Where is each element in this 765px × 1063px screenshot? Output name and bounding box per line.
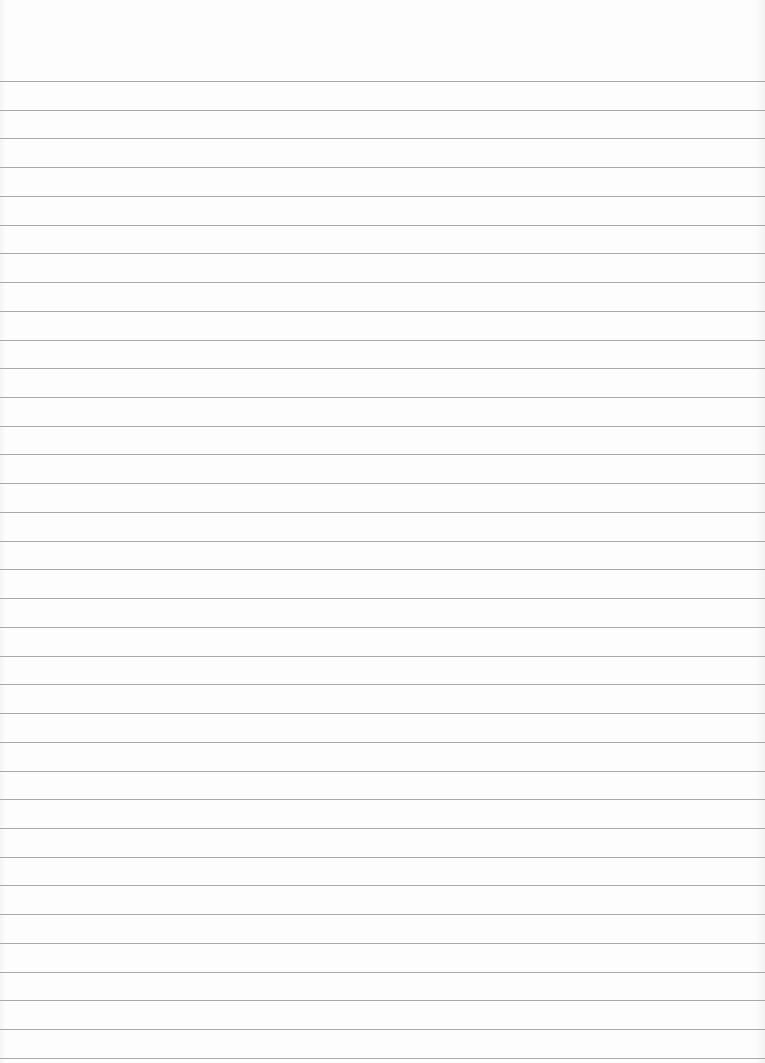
ruled-line [0, 167, 765, 168]
ruled-line [0, 1000, 765, 1001]
ruled-line [0, 541, 765, 542]
ruled-line [0, 397, 765, 398]
ruled-line [0, 1058, 765, 1059]
ruled-line [0, 340, 765, 341]
ruled-line [0, 368, 765, 369]
ruled-line [0, 598, 765, 599]
ruled-line [0, 225, 765, 226]
ruled-line [0, 512, 765, 513]
ruled-line [0, 656, 765, 657]
ruled-line [0, 771, 765, 772]
ruled-line [0, 627, 765, 628]
ruled-line [0, 799, 765, 800]
ruled-line [0, 282, 765, 283]
ruled-line [0, 311, 765, 312]
ruled-line [0, 454, 765, 455]
ruled-line [0, 81, 765, 82]
ruled-line [0, 1029, 765, 1030]
ruled-line [0, 885, 765, 886]
ruled-line [0, 972, 765, 973]
ruled-line [0, 138, 765, 139]
ruled-line [0, 569, 765, 570]
ruled-line [0, 426, 765, 427]
ruled-line [0, 483, 765, 484]
ruled-line [0, 196, 765, 197]
ruled-line [0, 828, 765, 829]
ruled-line [0, 943, 765, 944]
ruled-line [0, 713, 765, 714]
ruled-line [0, 253, 765, 254]
ruled-line [0, 857, 765, 858]
ruled-line [0, 914, 765, 915]
ruled-line [0, 742, 765, 743]
ruled-line [0, 110, 765, 111]
lined-paper-sheet [0, 0, 765, 1063]
ruled-line [0, 684, 765, 685]
